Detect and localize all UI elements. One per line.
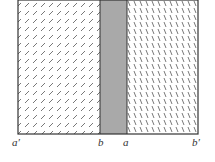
left-region: [18, 0, 100, 134]
label-b-prime: b′: [192, 136, 201, 148]
label-b: b: [98, 136, 104, 148]
diagram: a′ b a b′: [0, 0, 215, 162]
middle-band: [100, 0, 127, 134]
right-region: [127, 0, 198, 134]
label-a-prime: a′: [12, 136, 21, 148]
label-a: a: [123, 136, 129, 148]
